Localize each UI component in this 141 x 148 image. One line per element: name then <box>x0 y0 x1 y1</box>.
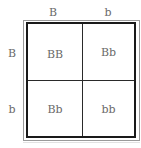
genotype-label: bb <box>101 103 115 116</box>
punnett-grid: BB Bb Bb bb <box>26 22 136 138</box>
row-header-allele-2: b <box>8 104 15 115</box>
column-header-allele-2: b <box>104 7 111 18</box>
grid-cell-r1c1: BB <box>28 24 83 81</box>
genotype-label: BB <box>47 48 63 61</box>
genotype-label: Bb <box>101 46 116 59</box>
grid-cell-r2c1: Bb <box>28 81 83 136</box>
column-header-allele-1: B <box>49 7 57 18</box>
grid-cell-r1c2: Bb <box>83 24 134 81</box>
genotype-label: Bb <box>47 103 62 116</box>
frame-shadow <box>23 142 140 143</box>
grid-cell-r2c2: bb <box>83 81 134 136</box>
row-header-allele-1: B <box>8 48 16 59</box>
